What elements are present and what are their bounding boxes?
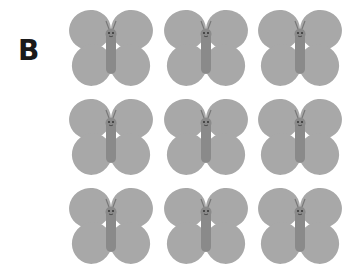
butterfly-icon xyxy=(257,97,343,177)
butterfly-icon xyxy=(163,186,249,266)
butterfly-icon xyxy=(257,8,343,88)
butterfly-icon xyxy=(68,186,154,266)
butterfly-grid xyxy=(0,0,362,272)
butterfly-icon xyxy=(163,8,249,88)
butterfly-icon xyxy=(68,97,154,177)
butterfly-icon xyxy=(257,186,343,266)
butterfly-icon xyxy=(163,97,249,177)
butterfly-icon xyxy=(68,8,154,88)
